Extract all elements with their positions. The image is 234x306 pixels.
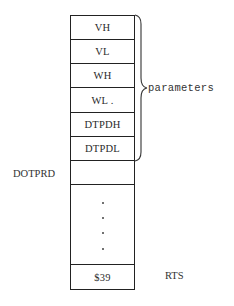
cell-label: $39 — [94, 272, 110, 283]
stack-cell-dtpdh: DTPDH — [71, 113, 134, 137]
stack-cell-vl: VL — [71, 40, 134, 64]
stack-cell-wh: WH — [71, 64, 134, 88]
stack-cell-dotprd-entry — [71, 161, 134, 185]
cell-label: DTPDL — [85, 143, 120, 154]
ellipsis-dot — [102, 232, 104, 234]
parameters-label: parameters — [148, 82, 214, 94]
cell-label: VH — [95, 22, 111, 33]
stack-cell-rts-opcode: $39 — [71, 265, 134, 290]
stack-cell-dtpdl: DTPDL — [71, 137, 134, 161]
stack-cell-wl: WL . — [71, 88, 134, 113]
ellipsis-dot — [102, 217, 104, 219]
cell-label: VL — [95, 46, 109, 57]
cell-label: WL . — [92, 95, 114, 106]
cell-label: WH — [94, 70, 112, 81]
stack-cell-vh: VH — [71, 16, 134, 40]
ellipsis-dot — [102, 248, 104, 250]
dotprd-entry-label: DOTPRD — [13, 168, 55, 179]
memory-stack: VH VL WH WL . DTPDH DTPDL $39 — [70, 15, 135, 290]
curly-brace-icon — [134, 14, 148, 162]
rts-label: RTS — [165, 270, 184, 281]
stack-cell-continuation — [71, 185, 134, 265]
ellipsis-dot — [102, 202, 104, 204]
cell-label: DTPDH — [84, 119, 120, 130]
